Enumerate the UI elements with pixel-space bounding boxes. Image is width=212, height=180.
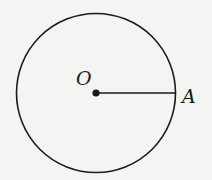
label-a: A <box>180 85 196 107</box>
center-point-o <box>92 89 99 96</box>
label-o: O <box>76 67 92 89</box>
circle-diagram: O A <box>0 0 212 180</box>
